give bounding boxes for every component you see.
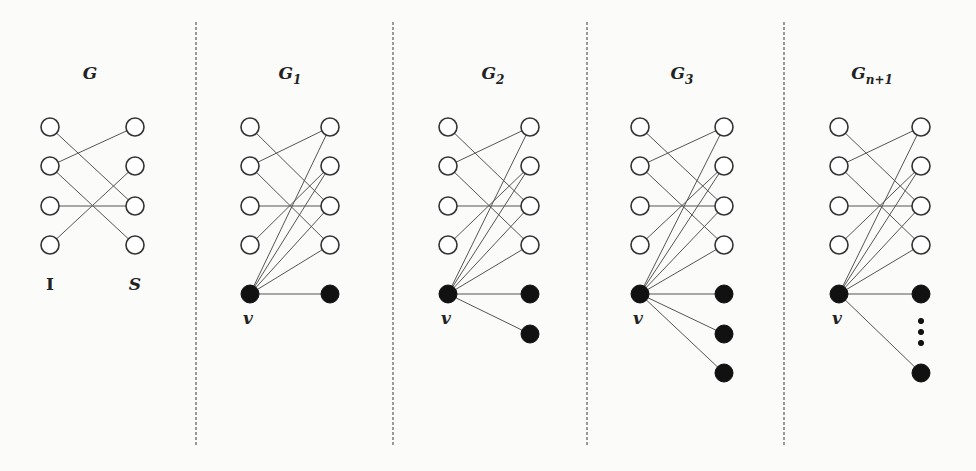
- panel-title: G2: [482, 63, 505, 87]
- node-S: [912, 197, 930, 215]
- graph-edge: [250, 127, 330, 166]
- node-new: [321, 285, 339, 303]
- graph-edge: [448, 127, 530, 206]
- graph-edge: [448, 127, 530, 166]
- v-edge: [250, 206, 330, 294]
- v-edge-new: [448, 294, 530, 334]
- label-I: I: [46, 274, 54, 294]
- node-S: [521, 118, 539, 136]
- graph-edge: [50, 127, 135, 206]
- node-new: [912, 285, 930, 303]
- node-I: [241, 118, 259, 136]
- node-I: [439, 197, 457, 215]
- v-edge: [448, 206, 530, 294]
- node-S: [715, 157, 733, 175]
- ellipsis-dot: [918, 329, 923, 334]
- node-S: [321, 157, 339, 175]
- graph-edge: [839, 127, 921, 166]
- graph-edge: [839, 127, 921, 206]
- node-I: [830, 118, 848, 136]
- v-label: v: [832, 308, 843, 328]
- node-S: [715, 197, 733, 215]
- v-edge: [250, 166, 330, 294]
- node-I: [830, 236, 848, 254]
- node-v: [241, 285, 259, 303]
- panel-title-subscript: n+1: [866, 73, 893, 87]
- node-I: [241, 157, 259, 175]
- node-I: [439, 118, 457, 136]
- bipartite-graph-figure: GISG1vG2vG3vGn+1v: [0, 0, 976, 471]
- node-I: [41, 157, 59, 175]
- node-I: [631, 157, 649, 175]
- node-I: [241, 236, 259, 254]
- node-S: [126, 236, 144, 254]
- v-edge-new: [640, 294, 724, 373]
- node-S: [521, 236, 539, 254]
- node-I: [41, 118, 59, 136]
- ellipsis-dot: [918, 318, 923, 323]
- ellipsis-dot: [918, 340, 923, 345]
- node-I: [631, 118, 649, 136]
- panel-g2: G2v: [439, 63, 539, 343]
- label-S: S: [129, 274, 141, 294]
- node-S: [521, 197, 539, 215]
- v-edge-new: [640, 294, 724, 334]
- graph-edge: [50, 127, 135, 166]
- node-new: [715, 325, 733, 343]
- node-S: [521, 157, 539, 175]
- panel-g: GIS: [41, 63, 144, 294]
- panel-title-subscript: 1: [293, 73, 301, 87]
- node-new: [715, 285, 733, 303]
- v-label: v: [633, 308, 644, 328]
- node-v: [631, 285, 649, 303]
- node-S: [321, 197, 339, 215]
- node-I: [41, 236, 59, 254]
- node-I: [830, 197, 848, 215]
- v-edge: [839, 166, 921, 294]
- v-label: v: [441, 308, 452, 328]
- panel-title: Gn+1: [851, 63, 893, 87]
- panel-g1: G1v: [241, 63, 339, 328]
- node-I: [439, 236, 457, 254]
- node-I: [631, 236, 649, 254]
- v-edge: [448, 166, 530, 294]
- node-S: [912, 157, 930, 175]
- node-v: [439, 285, 457, 303]
- panel-title: G1: [279, 63, 302, 87]
- node-I: [41, 197, 59, 215]
- graph-edge: [640, 127, 724, 206]
- node-I: [830, 157, 848, 175]
- node-S: [321, 118, 339, 136]
- node-S: [715, 118, 733, 136]
- node-S: [321, 236, 339, 254]
- panel-title-subscript: 2: [495, 73, 504, 87]
- v-label: v: [243, 308, 254, 328]
- node-v: [830, 285, 848, 303]
- node-I: [631, 197, 649, 215]
- node-I: [241, 197, 259, 215]
- node-S: [126, 197, 144, 215]
- panel-gn-plus-1: Gn+1v: [830, 63, 930, 382]
- node-S: [912, 236, 930, 254]
- panel-title: G3: [671, 63, 694, 87]
- v-edge: [839, 206, 921, 294]
- node-I: [439, 157, 457, 175]
- node-S: [912, 118, 930, 136]
- node-new: [912, 364, 930, 382]
- v-edge: [640, 206, 724, 294]
- graph-edge: [250, 127, 330, 206]
- node-new: [521, 285, 539, 303]
- node-new: [521, 325, 539, 343]
- node-S: [715, 236, 733, 254]
- node-new: [715, 364, 733, 382]
- v-edge: [640, 166, 724, 294]
- v-edge-new: [839, 294, 921, 373]
- node-S: [126, 157, 144, 175]
- panel-title: G: [83, 63, 98, 83]
- panel-g3: G3v: [631, 63, 733, 382]
- graph-edge: [640, 127, 724, 166]
- node-S: [126, 118, 144, 136]
- panel-title-subscript: 3: [685, 73, 693, 87]
